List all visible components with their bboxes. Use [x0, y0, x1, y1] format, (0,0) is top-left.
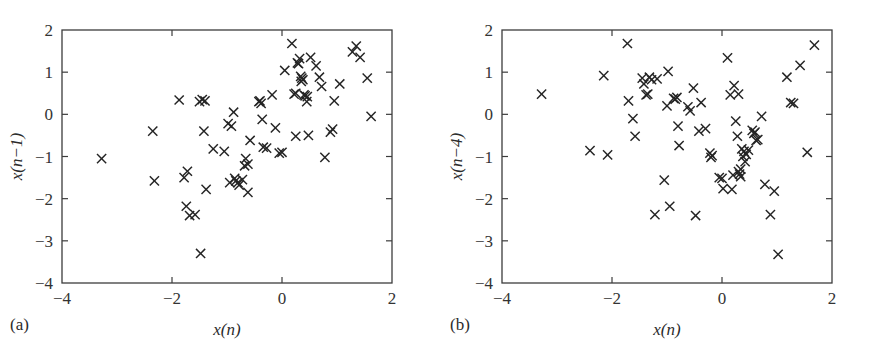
panel-b-plot: −4−202−4−3−2−1012x(n)x(n−4)(b) [440, 0, 880, 353]
data-point-marker [665, 202, 674, 211]
y-tick-label: −1 [475, 148, 493, 167]
y-tick-label: −2 [475, 190, 493, 209]
data-point-marker [246, 136, 255, 145]
data-point-marker [719, 184, 728, 193]
data-point-marker [268, 90, 277, 99]
data-point-marker [728, 170, 737, 179]
data-point-marker [320, 153, 329, 162]
y-axis-title: x(n−1) [7, 132, 26, 181]
data-point-marker [335, 79, 344, 88]
data-point-marker [628, 114, 637, 123]
data-point-marker [810, 41, 819, 50]
x-tick-label: −2 [603, 289, 621, 308]
data-point-marker [220, 147, 229, 156]
y-tick-label: −1 [35, 148, 53, 167]
panel-a: −4−202−4−3−2−1012x(n)x(n−1)(a) [0, 0, 440, 353]
data-point-marker [689, 84, 698, 93]
data-point-marker [585, 146, 594, 155]
data-point-marker [225, 178, 234, 187]
data-point-marker [243, 188, 252, 197]
data-point-marker [770, 186, 779, 195]
data-point-marker [723, 53, 732, 62]
x-axis-title: x(n) [652, 320, 681, 339]
data-point-marker [195, 97, 204, 106]
data-point-marker [757, 112, 766, 121]
data-point-marker [697, 98, 706, 107]
data-point-marker [258, 115, 267, 124]
data-point-marker [209, 144, 218, 153]
data-point-marker [182, 202, 191, 211]
data-point-marker [356, 53, 365, 62]
data-point-marker [227, 122, 236, 131]
x-tick-label: 0 [278, 289, 287, 308]
data-point-marker [760, 180, 769, 189]
y-axis-title: x(n−4) [447, 132, 466, 181]
y-tick-label: −3 [35, 232, 53, 251]
panel-b: −4−202−4−3−2−1012x(n)x(n−4)(b) [440, 0, 880, 353]
data-point-marker [148, 127, 157, 136]
y-tick-label: 2 [485, 21, 494, 40]
data-point-marker [304, 131, 313, 140]
y-tick-label: −4 [35, 274, 54, 293]
data-point-marker [328, 124, 337, 133]
data-point-marker [97, 154, 106, 163]
plot-frame [502, 30, 832, 283]
data-point-marker [730, 81, 739, 90]
x-tick-label: −2 [163, 289, 181, 308]
data-point-marker [271, 123, 280, 132]
data-point-marker [306, 53, 315, 62]
scatter-figure: −4−202−4−3−2−1012x(n)x(n−1)(a) −4−202−4−… [0, 0, 881, 353]
y-tick-label: 0 [485, 105, 494, 124]
data-point-marker [774, 250, 783, 259]
panel-caption: (b) [450, 315, 470, 334]
data-point-marker [367, 112, 376, 121]
data-point-marker [291, 132, 300, 141]
data-point-marker [734, 89, 743, 98]
y-tick-label: −4 [475, 274, 494, 293]
x-tick-label: 2 [828, 289, 837, 308]
data-point-marker [537, 89, 546, 98]
data-point-marker [196, 249, 205, 258]
data-point-marker [348, 47, 357, 56]
data-point-marker [352, 41, 361, 50]
y-tick-label: 2 [45, 21, 54, 40]
data-point-marker [280, 66, 289, 75]
data-point-marker [748, 126, 757, 135]
y-tick-label: 0 [45, 105, 54, 124]
plot-frame [62, 30, 392, 283]
data-point-marker [782, 73, 791, 82]
x-axis-title: x(n) [212, 320, 241, 339]
data-point-marker [742, 150, 751, 159]
data-point-marker [650, 210, 659, 219]
data-point-marker [796, 61, 805, 70]
data-point-marker [330, 96, 339, 105]
data-point-marker [675, 141, 684, 150]
data-point-marker [660, 176, 669, 185]
data-point-marker [199, 127, 208, 136]
data-point-marker [315, 73, 324, 82]
data-point-marker [317, 82, 326, 91]
x-tick-label: 2 [388, 289, 397, 308]
data-point-marker [653, 74, 662, 83]
data-point-marker [363, 73, 372, 82]
data-point-marker [691, 211, 700, 220]
data-point-marker [238, 175, 247, 184]
data-point-marker [599, 71, 608, 80]
data-point-marker [766, 210, 775, 219]
data-point-marker [631, 132, 640, 141]
x-tick-label: −4 [53, 289, 72, 308]
data-point-marker [686, 106, 695, 115]
x-tick-label: −4 [493, 289, 512, 308]
data-point-marker [673, 122, 682, 131]
panel-a-plot: −4−202−4−3−2−1012x(n)x(n−1)(a) [0, 0, 440, 353]
data-point-marker [229, 108, 238, 117]
data-point-marker [733, 132, 742, 141]
data-point-marker [150, 176, 159, 185]
y-tick-label: −3 [475, 232, 493, 251]
data-point-marker [603, 150, 612, 159]
data-point-marker [312, 61, 321, 70]
data-point-marker [202, 185, 211, 194]
data-point-marker [727, 185, 736, 194]
y-tick-label: −2 [35, 190, 53, 209]
data-point-marker [803, 148, 812, 157]
